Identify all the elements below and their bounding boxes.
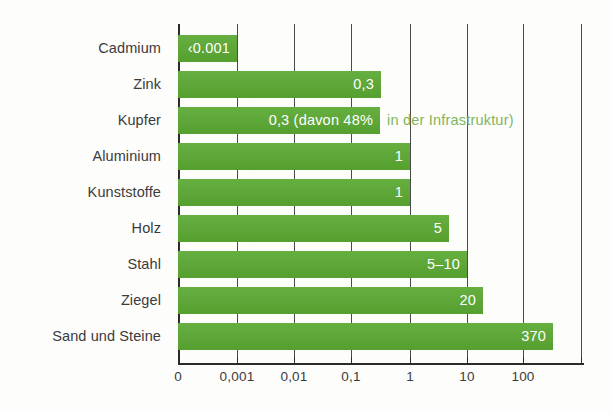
category-label: Sand und Steine xyxy=(0,323,170,350)
category-label: Kupfer xyxy=(0,107,170,134)
bar-value-label: 370 xyxy=(521,323,546,350)
bar-value-label: 1 xyxy=(395,143,403,170)
bar-value-label: 0,3 (davon 48% xyxy=(269,107,373,134)
x-axis-tick-label: 0,1 xyxy=(341,369,360,384)
bar: 5–10 xyxy=(178,251,467,278)
bar: 0,3 (davon 48%in der Infrastruktur) xyxy=(178,107,380,134)
bar: ‹0.001 xyxy=(178,35,237,62)
plot-area: ‹0.0010,30,3 (davon 48%in der Infrastruk… xyxy=(178,24,583,363)
bar: 1 xyxy=(178,179,410,206)
bar-value-label: 20 xyxy=(459,287,476,314)
x-axis-tick-label: 0,001 xyxy=(220,369,255,384)
gridline xyxy=(581,24,582,363)
bar: 20 xyxy=(178,287,483,314)
bar-value-label: 5 xyxy=(434,215,442,242)
gridline xyxy=(523,24,524,363)
x-axis-tick-label: 10 xyxy=(459,369,474,384)
category-label: Ziegel xyxy=(0,287,170,314)
category-label: Zink xyxy=(0,71,170,98)
x-axis-tick xyxy=(178,357,179,364)
bar: 370 xyxy=(178,323,553,350)
x-axis-tick-label: 1 xyxy=(406,369,414,384)
category-label: Stahl xyxy=(0,251,170,278)
bar: 1 xyxy=(178,143,410,170)
x-axis-tick xyxy=(523,357,524,364)
category-label: Cadmium xyxy=(0,35,170,62)
bar-value-label: 1 xyxy=(395,179,403,206)
x-axis-tick xyxy=(351,357,352,364)
bar-value-label: ‹0.001 xyxy=(188,35,230,62)
x-axis-tick xyxy=(410,357,411,364)
category-label: Holz xyxy=(0,215,170,242)
x-axis-tick xyxy=(467,357,468,364)
x-axis-tick xyxy=(581,357,582,364)
bar: 5 xyxy=(178,215,449,242)
bar-annotation: in der Infrastruktur) xyxy=(380,107,514,134)
x-axis-tick xyxy=(294,357,295,364)
category-axis: CadmiumZinkKupferAluminiumKunststoffeHol… xyxy=(0,0,170,413)
bar-value-label: 0,3 xyxy=(353,71,374,98)
bar-value-label: 5–10 xyxy=(427,251,460,278)
category-label: Kunststoffe xyxy=(0,179,170,206)
x-axis-tick-label: 0,01 xyxy=(280,369,307,384)
bar-chart: CadmiumZinkKupferAluminiumKunststoffeHol… xyxy=(0,0,611,413)
bar: 0,3 xyxy=(178,71,381,98)
x-axis-tick-label: 100 xyxy=(511,369,534,384)
category-label: Aluminium xyxy=(0,143,170,170)
x-axis-tick-label: 0 xyxy=(174,369,182,384)
x-axis-tick xyxy=(237,357,238,364)
